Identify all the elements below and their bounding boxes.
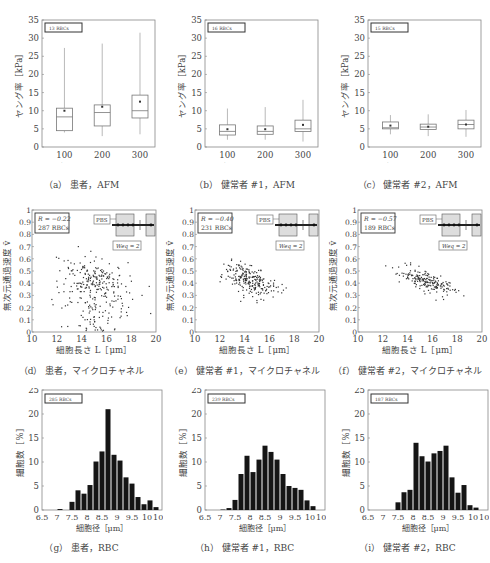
svg-text:PBS: PBS <box>259 217 271 223</box>
chart-f: 00.10.20.30.40.50.60.70.80.9110121416182… <box>326 200 489 363</box>
svg-text:PBS: PBS <box>422 217 434 223</box>
y-tick-label: 35 <box>28 15 39 25</box>
x-tick-label: 12 <box>377 334 388 344</box>
svg-text:287 RBCs: 287 RBCs <box>38 224 69 231</box>
channel-inset-diagram: PBSWeq = 2 <box>94 214 155 250</box>
x-tick-label: 7.5 <box>229 513 242 522</box>
x-tick-label: 6.5 <box>199 513 212 522</box>
x-tick-label: 20 <box>477 334 488 344</box>
caption-f: （f） 健常者 #2，マイクロチャネル <box>326 364 489 377</box>
y-tick-label: 0.5 <box>182 267 194 276</box>
scatter-points <box>220 259 287 304</box>
x-tick-label: 9 <box>114 513 119 522</box>
x-tick-label: 10 <box>190 334 201 344</box>
svg-text:R = −0.40: R = −0.40 <box>200 215 234 222</box>
x-tick-label: 14 <box>402 334 413 344</box>
x-tick-label: 100 <box>56 150 72 160</box>
y-axis-label: 無次元通過速度 ṽ <box>2 241 12 312</box>
count-badge: 15 RBCs <box>371 23 408 32</box>
x-tick-label: 12 <box>214 334 225 344</box>
y-tick-label: 0.7 <box>19 243 31 252</box>
y-tick-label: 15 <box>191 88 202 98</box>
x-axis-label: 細胞径［μm］ <box>402 523 455 533</box>
y-tick-label: 0.2 <box>182 304 194 313</box>
x-tick-label: 10 <box>353 334 364 344</box>
scatter-points <box>385 262 464 300</box>
box-200 <box>257 107 273 140</box>
count-badge: 239 RBCs <box>208 394 245 403</box>
histogram-bars <box>58 409 159 510</box>
y-tick-label: 0.4 <box>182 279 194 288</box>
y-tick-label: 25 <box>191 51 202 61</box>
panel-a-box-plot: 05101520253035ヤング率［kPa］13 RBCs100200300押… <box>0 0 163 163</box>
svg-text:Weq = 2: Weq = 2 <box>116 243 140 250</box>
channel-inset-diagram: PBSWeq = 2 <box>420 214 481 250</box>
histogram-bars <box>396 443 479 510</box>
svg-text:R = −0.57: R = −0.57 <box>363 215 397 222</box>
caption-d: （d） 患者，マイクロチャネル <box>0 364 163 377</box>
x-tick-label: 8.5 <box>96 513 109 522</box>
x-tick-label: 16 <box>264 334 275 344</box>
y-tick-label: 25 <box>191 388 202 395</box>
svg-text:R = −0.22: R = −0.22 <box>37 215 71 222</box>
svg-text:189 RBCs: 189 RBCs <box>364 224 395 231</box>
y-tick-label: 10 <box>354 457 365 467</box>
stats-box: R = −0.22287 RBCs <box>35 213 71 233</box>
x-tick-label: 6.5 <box>36 513 49 522</box>
y-tick-label: 0 <box>360 142 365 152</box>
svg-text:13 RBCs: 13 RBCs <box>49 26 69 31</box>
x-tick-label: 18 <box>126 334 137 344</box>
y-tick-label: 15 <box>191 433 202 443</box>
x-tick-label: 9.5 <box>452 513 465 522</box>
y-tick-label: 0.9 <box>182 218 194 227</box>
count-badge: 187 RBCs <box>371 394 408 403</box>
x-tick-label: 200 <box>94 150 110 160</box>
y-axis-label: 無次元通過速度 ṽ <box>165 241 175 312</box>
panel-g-histogram: 05101520256.577.588.599.51010.5細胞数［%］細胞径… <box>0 388 163 538</box>
y-tick-label: 0.7 <box>345 243 357 252</box>
y-tick-label: 0.9 <box>345 218 357 227</box>
y-tick-label: 5 <box>34 481 39 491</box>
y-tick-label: 5 <box>197 481 202 491</box>
y-tick-label: 0.8 <box>19 230 31 239</box>
x-tick-label: 100 <box>382 150 398 160</box>
panel-d-scatter: 00.10.20.30.40.50.60.70.80.9110121416182… <box>0 200 163 363</box>
y-tick-label: 15 <box>354 433 365 443</box>
box-200 <box>420 114 436 136</box>
y-tick-label: 20 <box>191 409 202 419</box>
panel-b-box-plot: 05101520253035ヤング率［kPa］16 RBCs100200300押… <box>163 0 326 163</box>
y-tick-label: 10 <box>191 457 202 467</box>
x-tick-label: 100 <box>219 150 235 160</box>
y-tick-label: 1 <box>189 206 194 215</box>
x-tick-label: 16 <box>427 334 438 344</box>
svg-text:231 RBCs: 231 RBCs <box>201 224 232 231</box>
y-tick-label: 10 <box>354 106 365 116</box>
chart-d: 00.10.20.30.40.50.60.70.80.9110121416182… <box>0 200 163 363</box>
x-tick-label: 16 <box>101 334 112 344</box>
y-tick-label: 0.8 <box>182 230 194 239</box>
y-tick-label: 0.4 <box>19 279 31 288</box>
y-tick-label: 15 <box>28 88 39 98</box>
x-tick-label: 14 <box>76 334 87 344</box>
y-tick-label: 1 <box>26 206 31 215</box>
channel-inset-diagram: PBSWeq = 2 <box>257 214 318 250</box>
x-tick-label: 7 <box>54 513 59 522</box>
x-tick-label: 9.5 <box>126 513 139 522</box>
y-tick-label: 20 <box>354 69 365 79</box>
svg-text:Weq = 2: Weq = 2 <box>279 243 303 250</box>
y-tick-label: 10 <box>28 106 39 116</box>
y-tick-label: 35 <box>354 15 365 25</box>
box-300 <box>132 33 148 135</box>
x-axis-label: 細胞径［μm］ <box>76 523 129 533</box>
x-tick-label: 20 <box>314 334 325 344</box>
x-tick-label: 9 <box>440 513 445 522</box>
caption-b: （b） 健常者 #1，AFM <box>163 178 326 191</box>
x-axis-label: 押込み深さ［nm］ <box>223 162 300 163</box>
x-tick-label: 8 <box>247 513 252 522</box>
x-axis-label: 押込み深さ［nm］ <box>386 162 463 163</box>
y-axis-label: 細胞数［%］ <box>341 423 351 476</box>
y-tick-label: 5 <box>34 124 39 134</box>
caption-c: （c） 健常者 #2，AFM <box>326 178 489 191</box>
caption-g: （g） 患者，RBC <box>0 541 163 554</box>
x-tick-label: 9 <box>277 513 282 522</box>
